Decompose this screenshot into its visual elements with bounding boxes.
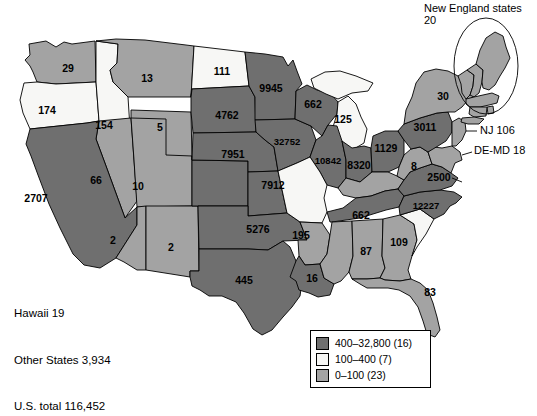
state-label-AR: 16	[306, 272, 318, 284]
state-label-IL: 10842	[315, 155, 341, 166]
demd-annotation: DE-MD 18	[474, 144, 525, 156]
state-label-PA: 3011	[414, 121, 437, 133]
state-label-IN: 8320	[347, 159, 371, 171]
state-label-TN: 662	[352, 209, 370, 221]
state-label-CO: 7912	[261, 179, 285, 191]
state-label-MT: 13	[141, 72, 153, 84]
state-TX	[190, 241, 302, 335]
state-label-IA: 32752	[274, 136, 300, 147]
legend-label-high: 400–32,800 (16)	[335, 337, 412, 349]
new-england-annotation: New England states 20	[424, 2, 537, 26]
legend-row: 0–100 (23)	[316, 367, 425, 383]
state-LI	[461, 117, 484, 124]
state-label-NY: 30	[437, 90, 449, 102]
legend-swatch-high	[316, 337, 329, 350]
state-OR	[20, 82, 99, 129]
state-label-NC: 12227	[413, 200, 439, 211]
state-CO	[192, 156, 248, 206]
state-label-VA: 2500	[427, 171, 451, 183]
state-label-TX: 445	[235, 274, 253, 286]
state-label-OR: 174	[38, 104, 56, 116]
state-label-SD: 4762	[215, 109, 239, 121]
state-label-WA: 29	[62, 62, 74, 74]
corner-note: Hawaii 19 Other States 3,934 U.S. total …	[14, 275, 111, 416]
state-label-NM: 2	[168, 241, 174, 253]
corner-note-other-states: Other States 3,934	[14, 353, 111, 369]
state-label-OH: 1129	[375, 142, 398, 154]
legend-swatch-low	[316, 369, 329, 382]
state-label-MN: 9945	[259, 82, 283, 94]
state-label-KY: 8	[411, 160, 417, 172]
state-label-CA: 2707	[24, 192, 48, 204]
state-label-FL: 83	[424, 286, 436, 298]
state-label-SC: 109	[390, 236, 408, 248]
state-label-NE: 7951	[221, 148, 245, 160]
legend-swatch-mid	[316, 353, 329, 366]
state-label-GA: 87	[360, 245, 372, 257]
legend-row: 400–32,800 (16)	[316, 335, 425, 351]
legend-label-mid: 100–400 (7)	[335, 353, 392, 365]
state-label-AZ: 2	[110, 234, 116, 246]
state-label-ID: 154	[95, 119, 113, 131]
state-GA	[380, 215, 417, 281]
state-label-ND: 111	[214, 65, 231, 77]
corner-note-us-total: U.S. total 116,452	[14, 399, 111, 415]
state-label-WI: 662	[304, 98, 322, 110]
nj-annotation: NJ 106	[480, 124, 515, 136]
state-label-WY: 5	[157, 121, 163, 133]
state-label-MO: 195	[292, 229, 310, 241]
legend-row: 100–400 (7)	[316, 351, 425, 367]
state-WA	[25, 41, 96, 84]
demd-leader-line	[462, 152, 472, 155]
map-legend: 400–32,800 (16) 100–400 (7) 0–100 (23)	[310, 330, 431, 388]
state-label-NV: 66	[90, 174, 102, 186]
legend-label-low: 0–100 (23)	[335, 369, 386, 381]
state-label-KS: 5276	[246, 223, 270, 235]
corner-note-hawaii: Hawaii 19	[14, 306, 111, 322]
state-label-MI: 125	[334, 113, 352, 125]
state-CT	[469, 107, 487, 117]
state-label-UT: 10	[132, 180, 144, 192]
